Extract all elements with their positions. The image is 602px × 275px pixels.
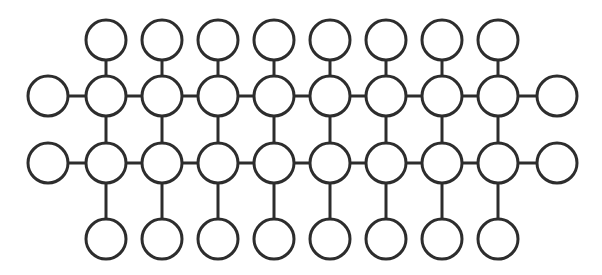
graph-node-bottom-8 xyxy=(478,219,518,259)
graph-node-upper-2 xyxy=(142,76,182,116)
graph-node-top-2 xyxy=(142,20,182,60)
graph-node-top-5 xyxy=(310,20,350,60)
graph-node-top-7 xyxy=(422,20,462,60)
node-layer xyxy=(28,20,577,259)
graph-node-right-lower-end xyxy=(537,143,577,183)
graph-node-bottom-2 xyxy=(142,219,182,259)
graph-node-lower-7 xyxy=(422,143,462,183)
graph-node-bottom-5 xyxy=(310,219,350,259)
graph-node-lower-6 xyxy=(366,143,406,183)
graph-node-left-upper-end xyxy=(28,76,68,116)
graph-diagram-svg xyxy=(0,0,602,275)
graph-node-upper-3 xyxy=(198,76,238,116)
edge-layer xyxy=(48,40,557,239)
graph-node-left-lower-end xyxy=(28,143,68,183)
graph-node-upper-6 xyxy=(366,76,406,116)
graph-node-bottom-4 xyxy=(254,219,294,259)
graph-node-lower-8 xyxy=(478,143,518,183)
graph-node-bottom-7 xyxy=(422,219,462,259)
graph-node-upper-5 xyxy=(310,76,350,116)
graph-node-bottom-3 xyxy=(198,219,238,259)
graph-node-lower-1 xyxy=(86,143,126,183)
graph-node-upper-8 xyxy=(478,76,518,116)
graph-node-top-4 xyxy=(254,20,294,60)
graph-diagram-canvas xyxy=(0,0,602,275)
graph-node-top-3 xyxy=(198,20,238,60)
graph-node-bottom-6 xyxy=(366,219,406,259)
graph-node-upper-7 xyxy=(422,76,462,116)
graph-node-upper-4 xyxy=(254,76,294,116)
graph-node-lower-3 xyxy=(198,143,238,183)
graph-node-top-8 xyxy=(478,20,518,60)
graph-node-right-upper-end xyxy=(537,76,577,116)
graph-node-lower-2 xyxy=(142,143,182,183)
graph-node-bottom-1 xyxy=(86,219,126,259)
graph-node-top-1 xyxy=(86,20,126,60)
graph-node-upper-1 xyxy=(86,76,126,116)
graph-node-top-6 xyxy=(366,20,406,60)
graph-node-lower-4 xyxy=(254,143,294,183)
graph-node-lower-5 xyxy=(310,143,350,183)
